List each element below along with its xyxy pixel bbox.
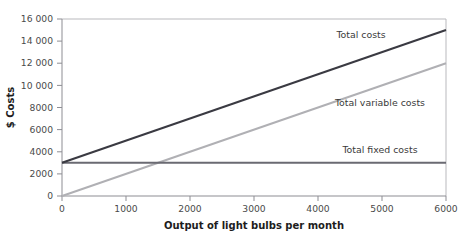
- x-axis-title: Output of light bulbs per month: [164, 220, 344, 231]
- x-tick-label-0: 0: [59, 203, 65, 214]
- x-tick-label-3000: 3000: [242, 203, 266, 214]
- annotation-total-variable-costs: Total variable costs: [334, 97, 425, 108]
- series-line-total-variable-costs: [62, 63, 446, 196]
- y-tick-label-8000: 8000: [30, 102, 54, 113]
- cost-behaviour-chart: 0 2000 4000 6000 8000 10 000 12 000 14 0…: [0, 0, 469, 241]
- x-tick-label-6000: 6000: [434, 203, 458, 214]
- x-tick-label-2000: 2000: [178, 203, 202, 214]
- y-tick-label-10000: 10 000: [21, 80, 53, 91]
- y-tick-label-16000: 16 000: [21, 13, 53, 24]
- x-axis-ticks: [62, 196, 446, 201]
- chart-canvas: 0 2000 4000 6000 8000 10 000 12 000 14 0…: [0, 0, 469, 241]
- x-axis-tick-labels: 0 1000 2000 3000 4000 5000 6000: [59, 203, 458, 214]
- x-tick-label-1000: 1000: [114, 203, 138, 214]
- y-tick-label-12000: 12 000: [21, 57, 53, 68]
- y-tick-label-6000: 6000: [30, 124, 54, 135]
- y-tick-label-2000: 2000: [30, 168, 54, 179]
- y-tick-label-0: 0: [47, 190, 53, 201]
- annotation-total-fixed-costs: Total fixed costs: [341, 144, 417, 155]
- y-tick-label-4000: 4000: [30, 146, 54, 157]
- y-tick-label-14000: 14 000: [21, 35, 53, 46]
- y-axis-ticks: [57, 19, 62, 196]
- y-axis-title: $ Costs: [5, 87, 16, 128]
- annotation-total-costs: Total costs: [335, 29, 385, 40]
- x-tick-label-4000: 4000: [306, 203, 330, 214]
- x-tick-label-5000: 5000: [370, 203, 394, 214]
- y-axis-tick-labels: 0 2000 4000 6000 8000 10 000 12 000 14 0…: [21, 13, 53, 201]
